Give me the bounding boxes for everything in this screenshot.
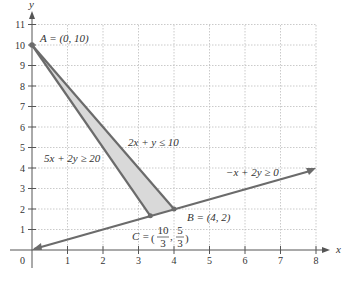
y-axis-arrow-icon [29,11,35,19]
x-tick-label: 3 [136,255,141,266]
chart: 1 2 3 4 5 6 7 8 1 2 3 4 5 6 7 8 9 10 11 … [0,0,345,281]
x-axis-arrow-icon [322,247,330,253]
inequality-2-label: 2x + y ≤ 10 [128,136,179,148]
inequality-1-label: 5x + 2y ≥ 20 [44,152,101,164]
x-axis-label: x [335,243,341,255]
x-tick-label: 5 [207,255,212,266]
c-y-numerator: 5 [177,224,183,236]
c-x-denominator: 3 [160,237,166,249]
paren-open: ( [151,232,155,245]
point-a-label: A = (0, 10) [39,32,89,45]
origin-label: 0 [20,255,25,266]
paren-close: ) [185,232,189,245]
y-tick-label: 10 [15,40,25,51]
y-tick-labels: 1 2 3 4 5 6 7 8 9 10 11 [15,19,25,235]
x-tick-label: 6 [243,255,248,266]
inequality-3-label: −x + 2y ≥ 0 [226,166,279,178]
c-x-numerator: 10 [158,224,170,236]
x-tick-labels: 1 2 3 4 5 6 7 8 [65,255,319,266]
y-tick-label: 8 [20,81,25,92]
y-tick-label: 1 [20,224,25,235]
vertex-a [29,42,35,48]
point-b-label: B = (4, 2) [187,211,231,224]
y-axis-label: y [28,0,34,10]
comma: , [170,230,173,242]
c-y-denominator: 3 [177,237,183,249]
y-tick-label: 11 [15,19,25,30]
y-tick-label: 6 [20,122,25,133]
x-tick-label: 2 [101,255,106,266]
line-arrow-start-icon [32,243,42,250]
y-tick-label: 5 [20,142,25,153]
x-tick-label: 1 [65,255,70,266]
x-tick-label: 8 [314,255,319,266]
point-c-label: C = ( 10 3 , 5 3 ) [132,224,189,249]
line-5x-2y-20 [32,45,150,216]
vertex-b [172,207,177,212]
y-tick-label: 4 [20,163,25,174]
y-tick-label: 9 [20,60,25,71]
x-tick-label: 7 [278,255,283,266]
vertex-c [148,213,153,218]
y-tick-label: 3 [20,183,25,194]
x-tick-label: 4 [172,255,177,266]
y-tick-label: 7 [20,101,25,112]
point-c-prefix: C = [132,230,150,242]
y-tick-label: 2 [20,204,25,215]
line-arrow-end-icon [306,168,316,175]
